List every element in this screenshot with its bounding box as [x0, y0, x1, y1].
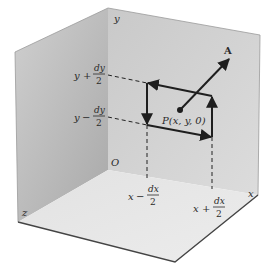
svg-text:y: y: [73, 112, 80, 123]
svg-text:y: y: [73, 70, 80, 81]
origin-label: O: [111, 157, 119, 168]
svg-text:dy: dy: [94, 63, 106, 73]
svg-text:dx: dx: [214, 196, 225, 206]
axis-label-x: x: [248, 188, 254, 199]
svg-text:2: 2: [216, 209, 222, 219]
svg-text:2: 2: [96, 76, 102, 86]
svg-text:x: x: [128, 191, 134, 202]
coordinate-diagram: y x z O A P(x, y, 0) y + dy 2 y − dy 2 x…: [0, 0, 278, 276]
svg-text:2: 2: [96, 118, 102, 128]
vector-label-a: A: [223, 45, 232, 56]
svg-text:dx: dx: [148, 184, 159, 194]
svg-text:+: +: [83, 70, 91, 81]
svg-text:−: −: [82, 112, 90, 123]
svg-text:2: 2: [150, 197, 156, 207]
axis-label-z: z: [21, 207, 28, 218]
back-wall-xy-plane: [108, 8, 260, 195]
svg-text:x: x: [193, 203, 199, 214]
svg-text:−: −: [136, 191, 144, 202]
point-label-p: P(x, y, 0): [161, 115, 206, 126]
point-p-dot: [177, 107, 183, 113]
axis-label-y: y: [113, 13, 120, 24]
svg-text:dy: dy: [94, 105, 106, 115]
svg-text:+: +: [202, 203, 210, 214]
